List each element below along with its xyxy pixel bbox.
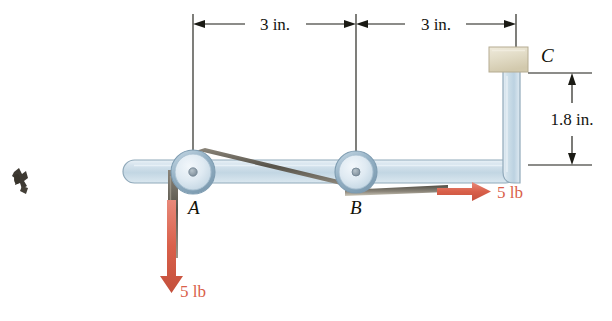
dimension-label-left: 3 in.: [260, 15, 290, 34]
force-label-vertical: 5 lb: [180, 282, 206, 301]
force-arrow-horizontal: 5 lb: [437, 182, 523, 202]
pulley-a-label: A: [186, 197, 200, 218]
pulley-a: [171, 150, 215, 194]
pulley-b-label: B: [350, 197, 362, 218]
mechanics-figure: 3 in. 3 in.: [0, 0, 612, 321]
scan-artifact-smudge: [12, 168, 28, 194]
dimension-extension-lines: [193, 14, 516, 152]
force-label-horizontal: 5 lb: [497, 183, 523, 202]
pulley-b: [335, 151, 377, 193]
dimension-label-right: 3 in.: [421, 15, 451, 34]
dimension-height-c: 1.8 in.: [528, 73, 593, 165]
block-c-label: C: [541, 45, 554, 66]
dimension-label-height: 1.8 in.: [551, 110, 594, 129]
figure-canvas: 3 in. 3 in.: [0, 0, 612, 321]
dimension-span-right: 3 in.: [356, 15, 516, 34]
vertical-bar: [503, 70, 520, 183]
dimension-span-left: 3 in.: [193, 15, 356, 34]
block-c: [489, 47, 528, 72]
